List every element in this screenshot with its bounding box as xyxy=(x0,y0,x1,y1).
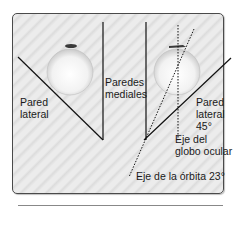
right-eyeball-icon xyxy=(154,49,200,95)
orbit-axis-label: Eje de la órbita 23° xyxy=(136,170,225,182)
bottom-divider xyxy=(18,205,223,206)
left-lateral-wall-label: Pared lateral xyxy=(20,96,49,120)
medial-walls-label: Paredes mediales xyxy=(105,76,147,100)
eyeball-axis-label: Eje del globo ocular xyxy=(175,133,232,157)
left-eyeball-icon xyxy=(47,49,93,95)
left-muscle-mark-icon xyxy=(65,44,77,48)
left-orbit xyxy=(18,22,103,140)
right-lateral-wall-label: Pared lateral 45° xyxy=(196,96,225,132)
